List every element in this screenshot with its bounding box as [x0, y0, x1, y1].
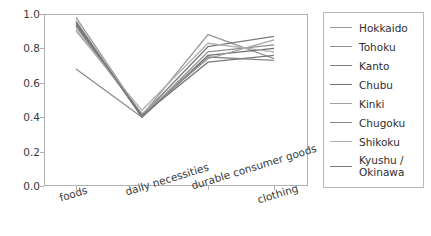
legend-line-swatch [330, 27, 352, 28]
legend-item[interactable]: Hokkaido [328, 18, 419, 37]
y-tick-mark [40, 83, 44, 84]
legend-line-swatch [330, 103, 352, 104]
x-tick-label: foods [58, 185, 89, 204]
y-tick-mark [40, 48, 44, 49]
legend-line-swatch [330, 65, 352, 66]
y-tick-mark [40, 186, 44, 187]
chart-figure: 0.00.20.40.60.81.0 foodsdaily necessitie… [0, 0, 431, 236]
series-line [76, 24, 274, 115]
y-axis: 0.00.20.40.60.81.0 [0, 0, 40, 236]
series-line [76, 31, 274, 110]
series-line [76, 21, 274, 117]
legend-item-label: Kinki [359, 98, 384, 110]
x-tick-label: clothing [256, 183, 300, 206]
series-line [76, 29, 274, 113]
y-tick-label: 0.2 [6, 147, 40, 157]
y-tick-mark [40, 14, 44, 15]
legend-item-label: Shikoku [359, 136, 400, 148]
series-line [76, 23, 274, 118]
y-tick-label: 0.6 [6, 78, 40, 88]
legend-line-swatch [330, 166, 352, 167]
legend-item[interactable]: Chugoku [328, 113, 419, 132]
legend-item[interactable]: Kyushu / Okinawa [328, 151, 419, 181]
legend-item[interactable]: Chubu [328, 75, 419, 94]
legend-line-swatch [330, 141, 352, 142]
legend-item[interactable]: Shikoku [328, 132, 419, 151]
legend-item-label: Chugoku [359, 117, 405, 129]
legend-item-label: Kanto [359, 60, 389, 72]
legend-line-swatch [330, 46, 352, 47]
y-tick-label: 0.4 [6, 112, 40, 122]
y-tick-label: 0.8 [6, 43, 40, 53]
y-tick-mark [40, 152, 44, 153]
y-tick-label: 0.0 [6, 181, 40, 191]
legend-line-swatch [330, 84, 352, 85]
legend-item[interactable]: Kinki [328, 94, 419, 113]
legend-item-label: Kyushu / Okinawa [359, 154, 404, 178]
legend-item[interactable]: Tohoku [328, 37, 419, 56]
legend-item-label: Tohoku [359, 41, 396, 53]
y-tick-mark [40, 117, 44, 118]
y-tick-label: 1.0 [6, 9, 40, 19]
legend: HokkaidoTohokuKantoChubuKinkiChugokuShik… [323, 12, 424, 188]
legend-item[interactable]: Kanto [328, 56, 419, 75]
legend-item-label: Chubu [359, 79, 393, 91]
series-line [76, 26, 274, 115]
legend-line-swatch [330, 122, 352, 123]
legend-item-label: Hokkaido [359, 22, 408, 34]
